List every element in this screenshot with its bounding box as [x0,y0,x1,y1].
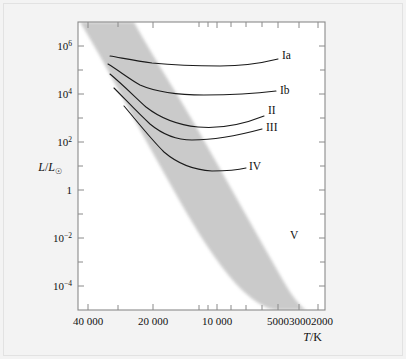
series-label-ii: II [268,104,276,116]
series-label-ib: Ib [280,84,290,96]
x-tick-label-2000: 2000 [311,315,334,327]
y-axis-title: L/L☉ [37,160,62,176]
x-tick-label-10000: 10 000 [202,315,233,327]
y-tick-label-1e4: 104 [57,87,72,100]
x-tick-labels: 40 000 20 000 10 000 5000 3000 2000 [73,315,334,327]
series-label-ia: Ia [282,49,291,61]
hr-diagram-figure: 106 104 102 1 10−2 10−4 L/L☉ 40 000 20 0… [0,0,406,359]
x-axis-title: T/K [303,330,322,344]
x-tick-label-5000: 5000 [267,315,290,327]
x-tick-label-3000: 3000 [289,315,312,327]
y-tick-label-1e6: 106 [57,39,72,52]
x-tick-label-40000: 40 000 [73,315,104,327]
y-tick-label-1e2: 102 [57,135,72,148]
series-label-iv: IV [249,160,262,172]
hr-diagram-chart: 106 104 102 1 10−2 10−4 L/L☉ 40 000 20 0… [0,0,406,359]
series-label-v: V [290,229,299,241]
y-tick-label-1: 1 [67,184,73,196]
y-tick-label-1em2: 10−2 [53,231,72,244]
x-tick-label-20000: 20 000 [138,315,169,327]
series-label-iii: III [266,121,278,133]
y-tick-labels: 106 104 102 1 10−2 10−4 [53,39,72,292]
y-tick-label-1em4: 10−4 [53,279,72,292]
